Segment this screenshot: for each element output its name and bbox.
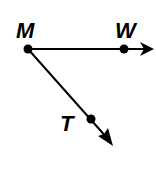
point-m bbox=[24, 45, 33, 54]
ray-diagram: M W T bbox=[0, 0, 156, 182]
label-w: W bbox=[115, 18, 138, 43]
label-m: M bbox=[16, 18, 35, 43]
point-w bbox=[120, 45, 129, 54]
point-t bbox=[87, 115, 96, 124]
label-t: T bbox=[60, 111, 75, 136]
